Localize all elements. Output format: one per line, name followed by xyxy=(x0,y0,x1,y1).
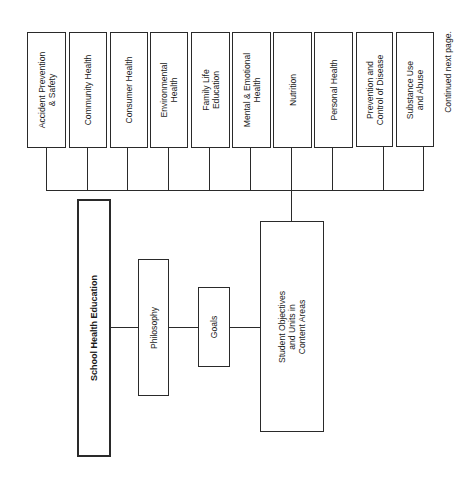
philosophy-label: Philosophy xyxy=(149,306,159,348)
connector-line xyxy=(127,148,128,191)
content-area-label: Substance Use and Abuse xyxy=(405,60,425,118)
root-box-school-health-education: School Health Education xyxy=(77,199,111,457)
content-area-prevention-control-disease: Prevention and Control of Disease xyxy=(356,32,393,147)
philosophy-box: Philosophy xyxy=(138,259,169,396)
connector-bus-line xyxy=(46,190,424,191)
content-area-label: Environmental Health xyxy=(159,63,179,118)
connector-line xyxy=(250,148,251,191)
connector-line xyxy=(332,148,333,191)
content-area-label: Consumer Health xyxy=(124,57,134,124)
content-area-accident-prevention: Accident Prevention & Safety xyxy=(27,32,66,148)
connector-line xyxy=(423,147,424,191)
connector-line xyxy=(209,148,210,191)
content-area-mental-emotional-health: Mental & Emotional Health xyxy=(232,32,271,148)
content-area-community-health: Community Health xyxy=(69,32,107,148)
goals-box: Goals xyxy=(198,287,230,367)
content-area-label: Personal Health xyxy=(329,59,339,120)
connector-line xyxy=(87,148,88,191)
content-area-family-life-education: Family Life Education xyxy=(191,32,230,148)
goals-label: Goals xyxy=(209,316,219,338)
continued-note: Continued next page. xyxy=(443,31,453,113)
content-area-label: Prevention and Control of Disease xyxy=(365,54,385,125)
connector-line xyxy=(383,147,384,191)
content-area-label: Family Life Education xyxy=(201,69,221,111)
connector-line xyxy=(46,148,47,191)
connector-line xyxy=(169,327,198,328)
content-area-substance-use-abuse: Substance Use and Abuse xyxy=(396,32,434,147)
content-area-environmental-health: Environmental Health xyxy=(150,32,188,148)
content-area-personal-health: Personal Health xyxy=(314,32,353,148)
content-area-nutrition: Nutrition xyxy=(273,32,312,148)
content-area-label: Nutrition xyxy=(288,74,298,106)
content-area-label: Community Health xyxy=(83,55,93,126)
connector-line xyxy=(111,327,138,328)
objectives-box: Student Objectives and Units in Content … xyxy=(260,221,324,432)
connector-line xyxy=(230,327,260,328)
content-area-label: Accident Prevention & Safety xyxy=(37,52,57,128)
content-area-label: Mental & Emotional Health xyxy=(242,53,262,128)
connector-line xyxy=(168,148,169,191)
objectives-label: Student Objectives and Units in Content … xyxy=(277,290,307,362)
root-label: School Health Education xyxy=(89,275,99,381)
connector-line xyxy=(291,148,292,222)
content-area-consumer-health: Consumer Health xyxy=(110,32,148,148)
